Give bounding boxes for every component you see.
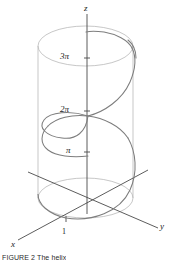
coordinate-axes [18,14,158,240]
x-axis-line [18,170,148,240]
z-axis-label: z [84,4,88,13]
figure-container: z y x 3π 2π π 1 FIGURE 2 The helix [0,0,172,262]
helix-segment-mid-left [42,126,88,157]
figure-caption: FIGURE 2 The helix [2,254,66,262]
z-tick-label-pi: π [66,146,71,155]
x-axis-point-label: 1 [62,228,66,236]
y-axis-label: y [160,222,164,231]
z-tick-label-3pi: 3π [60,52,69,61]
x-axis-label: x [11,240,15,249]
cylinder-bottom-ellipse [38,178,133,218]
helix-3d-plot [0,0,172,262]
helix-segment-upper-front [88,48,135,116]
helix-curve [42,31,136,219]
z-tick-label-2pi: 2π [60,105,69,114]
helix-segment-upper-back [86,31,132,48]
